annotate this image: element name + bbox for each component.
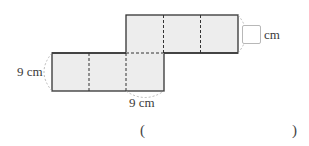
- height-dimension-arc: [44, 53, 52, 91]
- width-label: 9 cm: [129, 96, 155, 109]
- top-face-strip: [126, 15, 238, 53]
- bottom-face-strip: [52, 53, 164, 91]
- unknown-unit-label: cm: [264, 28, 280, 41]
- answer-open-paren: (: [140, 123, 145, 138]
- answer-close-paren: ): [292, 123, 297, 138]
- unknown-length-answer-box[interactable]: [242, 25, 261, 44]
- height-label: 9 cm: [17, 65, 43, 78]
- answer-input-area[interactable]: [152, 122, 288, 140]
